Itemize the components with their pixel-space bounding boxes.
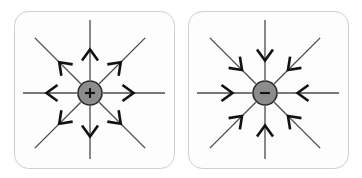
figure-root: +− bbox=[0, 0, 362, 178]
positive-charge-panel: + bbox=[15, 12, 175, 169]
field-diagram-canvas: +− bbox=[0, 0, 362, 178]
negative-charge-panel: − bbox=[189, 12, 349, 169]
